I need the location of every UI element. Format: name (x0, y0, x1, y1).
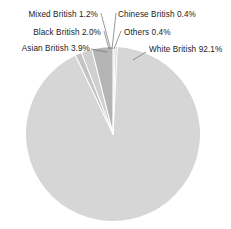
label-mixed-british: Mixed British 1.2% (28, 10, 98, 19)
pie-chart-figure: Mixed British 1.2% Black British 2.0% As… (0, 0, 231, 229)
label-chinese-british: Chinese British 0.4% (118, 10, 196, 19)
label-others: Others 0.4% (124, 28, 171, 37)
label-white-british: White British 92.1% (149, 45, 222, 54)
leader-line-others (114, 31, 121, 49)
label-asian-british: Asian British 3.9% (22, 44, 90, 53)
label-black-british: Black British 2.0% (33, 28, 101, 37)
leader-line-mixed-british (101, 13, 111, 49)
leader-line-chinese-british (112, 13, 116, 49)
